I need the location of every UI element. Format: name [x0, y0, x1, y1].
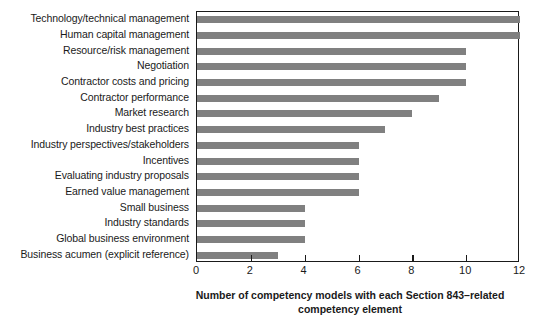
- bar-chart-figure: Technology/technical managementHuman cap…: [0, 0, 537, 320]
- x-axis-tick-labels: 024681012: [196, 264, 519, 280]
- x-axis-title: Number of competency models with each Se…: [170, 288, 530, 316]
- category-label: Incentives: [0, 155, 189, 166]
- bar: [197, 158, 359, 165]
- x-axis-tick: [251, 255, 252, 261]
- x-axis-title-line: competency element: [170, 302, 530, 316]
- category-label: Human capital management: [0, 29, 189, 40]
- bar: [197, 189, 359, 196]
- category-label: Technology/technical management: [0, 13, 189, 24]
- category-label: Industry best practices: [0, 123, 189, 134]
- x-axis-tick: [466, 255, 467, 261]
- category-label: Earned value management: [0, 186, 189, 197]
- x-axis-tick-label: 0: [193, 264, 199, 277]
- category-label: Contractor costs and pricing: [0, 76, 189, 87]
- x-axis-tick: [305, 255, 306, 261]
- x-axis-tick-label: 6: [354, 264, 360, 277]
- category-label: Industry standards: [0, 217, 189, 228]
- x-axis-tick-label: 2: [247, 264, 253, 277]
- bar: [197, 63, 466, 70]
- x-axis-tick: [412, 255, 413, 261]
- category-label: Small business: [0, 202, 189, 213]
- plot-area: [196, 11, 519, 262]
- bar: [197, 95, 439, 102]
- bar: [197, 79, 466, 86]
- x-axis-tick: [359, 255, 360, 261]
- category-label: Contractor performance: [0, 92, 189, 103]
- bar: [197, 110, 412, 117]
- category-label: Negotiation: [0, 60, 189, 71]
- bar: [197, 205, 305, 212]
- bar: [197, 16, 520, 23]
- x-axis-tick-label: 12: [513, 264, 525, 277]
- bar: [197, 126, 385, 133]
- bar: [197, 252, 278, 259]
- x-axis-tick-label: 10: [459, 264, 471, 277]
- x-axis-tick-label: 4: [301, 264, 307, 277]
- category-label: Market research: [0, 107, 189, 118]
- category-axis-labels: Technology/technical managementHuman cap…: [0, 11, 193, 262]
- bar: [197, 236, 305, 243]
- bar: [197, 220, 305, 227]
- x-axis-tick-label: 8: [408, 264, 414, 277]
- category-label: Global business environment: [0, 233, 189, 244]
- category-label: Evaluating industry proposals: [0, 170, 189, 181]
- bar: [197, 173, 359, 180]
- bar: [197, 142, 359, 149]
- category-label: Resource/risk management: [0, 45, 189, 56]
- bar: [197, 48, 466, 55]
- category-label: Business acumen (explicit reference): [0, 249, 189, 260]
- x-axis-title-line: Number of competency models with each Se…: [170, 288, 530, 302]
- bar: [197, 32, 520, 39]
- bar-series: [197, 12, 518, 261]
- category-label: Industry perspectives/stakeholders: [0, 139, 189, 150]
